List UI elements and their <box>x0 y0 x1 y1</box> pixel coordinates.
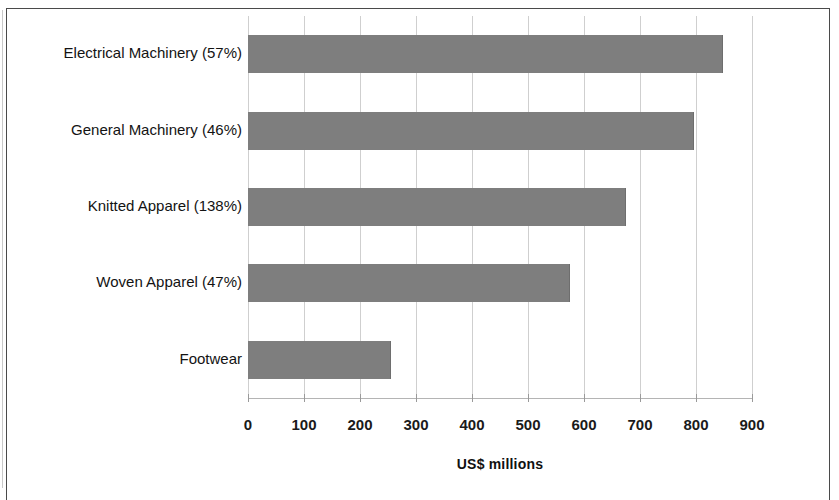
plot-area <box>248 16 752 398</box>
x-axis-tick <box>640 394 641 402</box>
x-axis-line <box>248 398 753 399</box>
category-label: General Machinery (46%) <box>14 121 242 138</box>
x-axis-tick <box>584 394 585 402</box>
x-axis-tick-label: 0 <box>218 416 278 433</box>
gridline <box>752 16 753 398</box>
x-axis-tick-label: 900 <box>722 416 782 433</box>
bar <box>248 112 694 150</box>
x-axis-tick-label: 100 <box>274 416 334 433</box>
x-axis-tick <box>528 394 529 402</box>
x-axis-tick-label: 400 <box>442 416 502 433</box>
x-axis-tick <box>472 394 473 402</box>
x-axis-tick <box>360 394 361 402</box>
x-axis-tick <box>304 394 305 402</box>
x-axis-tick-label: 200 <box>330 416 390 433</box>
x-axis-tick-label: 600 <box>554 416 614 433</box>
x-axis-tick-label: 300 <box>386 416 446 433</box>
x-axis-tick <box>416 394 417 402</box>
bar <box>248 264 570 302</box>
bar <box>248 341 391 379</box>
x-axis-title: US$ millions <box>248 456 752 472</box>
x-axis-tick-label: 500 <box>498 416 558 433</box>
category-label: Knitted Apparel (138%) <box>14 197 242 214</box>
x-axis-tick <box>752 394 753 402</box>
x-axis-tick-label: 700 <box>610 416 670 433</box>
bar <box>248 188 626 226</box>
x-axis-tick <box>248 394 249 402</box>
category-label: Electrical Machinery (57%) <box>14 44 242 61</box>
x-axis-tick <box>696 394 697 402</box>
category-label: Footwear <box>14 350 242 367</box>
x-axis-tick-label: 800 <box>666 416 726 433</box>
category-label: Woven Apparel (47%) <box>14 273 242 290</box>
bar <box>248 35 723 73</box>
